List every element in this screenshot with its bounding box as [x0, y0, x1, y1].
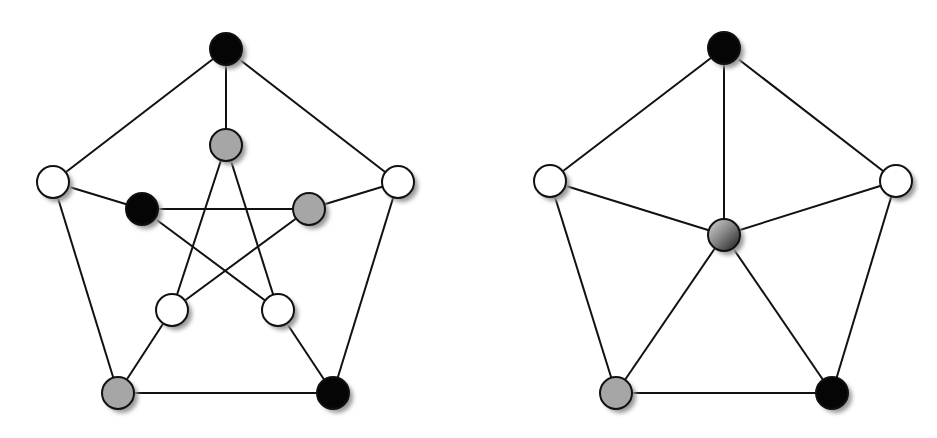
edge-i1-i3 — [172, 209, 309, 310]
graph-diagram — [0, 0, 937, 438]
node-i0-gray — [210, 129, 242, 161]
edge-i0-i3 — [172, 145, 226, 310]
edge-o0-o1 — [226, 49, 398, 182]
node-o1-white — [382, 166, 414, 198]
node-o4-white — [37, 166, 69, 198]
edge-o3-o4 — [53, 182, 118, 393]
edge-w3-w4 — [550, 181, 616, 393]
node-w4-white — [534, 165, 566, 197]
edge-c-w4 — [550, 181, 724, 235]
node-i1-gray — [293, 193, 325, 225]
edge-i4-i2 — [142, 209, 278, 310]
edge-w4-w0 — [550, 48, 724, 181]
node-o3-gray — [102, 377, 134, 409]
node-i4-black — [126, 193, 158, 225]
node-w1-white — [880, 165, 912, 197]
petersen-graph — [37, 33, 418, 413]
node-w3-gray — [600, 377, 632, 409]
edge-c-w3 — [616, 235, 724, 393]
diagram-canvas — [0, 0, 937, 438]
node-w2-black — [816, 377, 848, 409]
node-c-gradient — [708, 219, 740, 251]
edge-w0-w1 — [724, 48, 896, 181]
node-i3-white — [156, 294, 188, 326]
wheel-graph — [534, 32, 916, 413]
edges-layer — [53, 49, 398, 393]
shadows-layer — [41, 37, 418, 413]
node-w0-black — [708, 32, 740, 64]
edge-o1-o2 — [333, 182, 398, 393]
node-o2-black — [317, 377, 349, 409]
edge-w1-w2 — [832, 181, 896, 393]
node-o0-black — [210, 33, 242, 65]
node-i2-white — [262, 294, 294, 326]
edge-c-w1 — [724, 181, 896, 235]
edge-c-w2 — [724, 235, 832, 393]
edge-o4-o0 — [53, 49, 226, 182]
edge-i0-i2 — [226, 145, 278, 310]
